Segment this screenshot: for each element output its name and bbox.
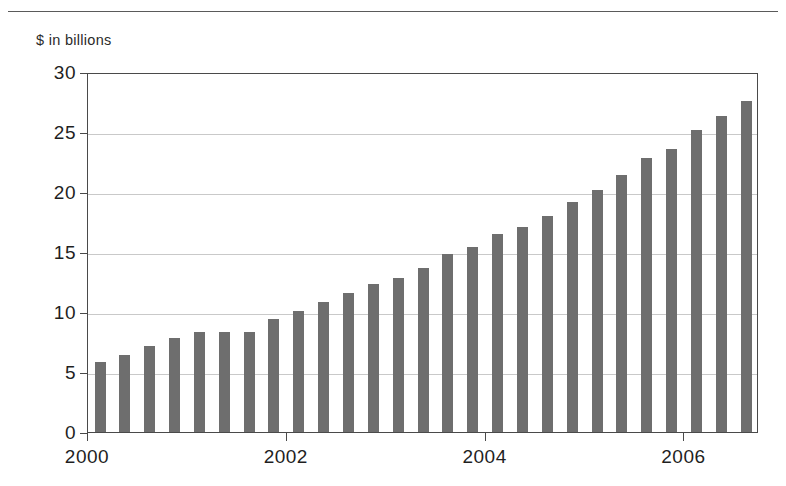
bar bbox=[418, 268, 429, 432]
bar bbox=[442, 254, 453, 432]
bar bbox=[293, 311, 304, 432]
bar bbox=[144, 346, 155, 432]
bar bbox=[492, 234, 503, 432]
y-tick-label: 25 bbox=[32, 122, 76, 144]
bar bbox=[368, 284, 379, 432]
y-axis-labels: 051015202530 bbox=[18, 0, 76, 486]
x-tick-2002 bbox=[286, 433, 287, 441]
bar bbox=[716, 116, 727, 432]
x-tick-label: 2004 bbox=[462, 446, 506, 468]
x-tick-label: 2006 bbox=[661, 446, 705, 468]
bar bbox=[119, 355, 130, 432]
bar bbox=[244, 332, 255, 432]
y-tick-5 bbox=[80, 373, 88, 374]
plot-area bbox=[87, 73, 758, 433]
y-tick-label: 20 bbox=[32, 182, 76, 204]
y-tick-20 bbox=[80, 193, 88, 194]
y-tick-label: 0 bbox=[32, 422, 76, 444]
y-tick-15 bbox=[80, 253, 88, 254]
bar bbox=[641, 158, 652, 432]
x-tick-label: 2000 bbox=[65, 446, 109, 468]
y-tick-label: 10 bbox=[32, 302, 76, 324]
y-tick-30 bbox=[80, 73, 88, 74]
bar bbox=[318, 302, 329, 432]
x-tick-2006 bbox=[683, 433, 684, 441]
bar bbox=[169, 338, 180, 432]
x-tick-2004 bbox=[485, 433, 486, 441]
bar bbox=[393, 278, 404, 432]
y-tick-10 bbox=[80, 313, 88, 314]
bar bbox=[666, 149, 677, 432]
x-tick-label: 2002 bbox=[264, 446, 308, 468]
figure-top-rule bbox=[8, 11, 778, 12]
y-tick-label: 15 bbox=[32, 242, 76, 264]
bar bbox=[95, 362, 106, 432]
bar bbox=[616, 175, 627, 432]
bar bbox=[467, 247, 478, 432]
bar bbox=[741, 101, 752, 432]
y-tick-label: 30 bbox=[32, 62, 76, 84]
bar bbox=[542, 216, 553, 432]
bar bbox=[219, 332, 230, 432]
bar bbox=[268, 319, 279, 432]
bar bbox=[592, 190, 603, 432]
bar bbox=[691, 130, 702, 432]
figure-container: $ in billions 051015202530 2000200220042… bbox=[0, 0, 786, 486]
bar bbox=[517, 227, 528, 432]
bar bbox=[343, 293, 354, 432]
x-tick-2000 bbox=[87, 433, 88, 441]
bar bbox=[194, 332, 205, 432]
y-tick-25 bbox=[80, 133, 88, 134]
bar-series bbox=[88, 74, 757, 432]
bar bbox=[567, 202, 578, 432]
y-tick-label: 5 bbox=[32, 362, 76, 384]
